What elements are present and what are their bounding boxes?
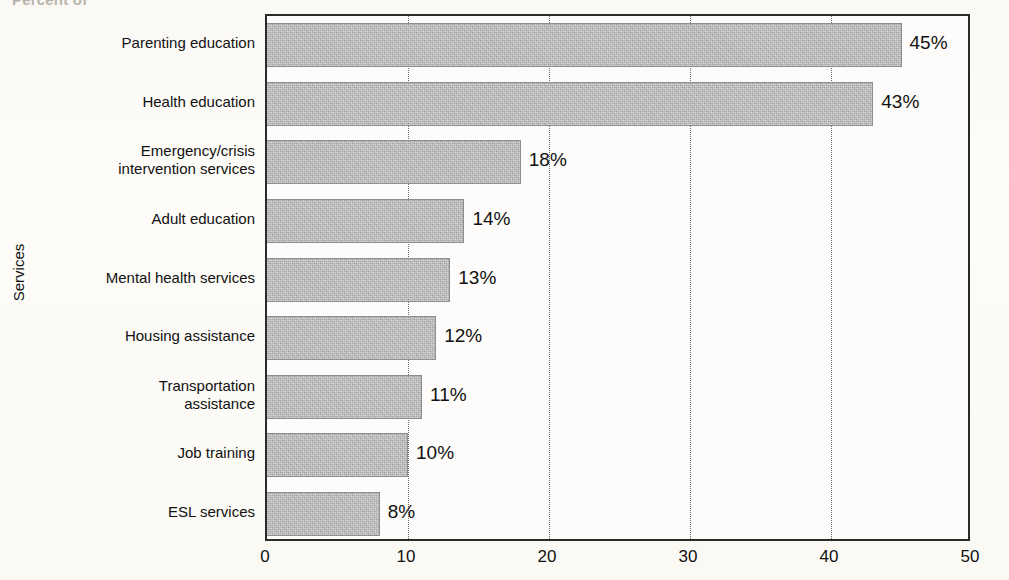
bar-value-label: 14% [472, 208, 510, 230]
bar [267, 199, 464, 243]
bar [267, 375, 422, 419]
plot-area [265, 14, 970, 541]
x-tick-label: 0 [260, 547, 269, 567]
category-label: Health education [0, 93, 265, 111]
bar-value-label: 11% [430, 384, 467, 406]
category-label: Mental health services [0, 269, 265, 287]
x-tick-label: 50 [961, 547, 980, 567]
category-label: Housing assistance [0, 327, 265, 345]
bar [267, 23, 902, 67]
x-tick-label: 40 [820, 547, 839, 567]
bar-value-label: 8% [388, 501, 415, 523]
category-label: ESL services [0, 503, 265, 521]
bar [267, 82, 873, 126]
category-label: Transportation assistance [0, 377, 265, 413]
bar-value-label: 12% [444, 325, 482, 347]
category-label: Job training [0, 444, 265, 462]
x-tick-label: 10 [397, 547, 416, 567]
x-tick-label: 20 [538, 547, 557, 567]
category-label: Adult education [0, 210, 265, 228]
category-label: Parenting education [0, 34, 265, 52]
bar-value-label: 10% [416, 442, 454, 464]
category-label: Emergency/crisis intervention services [0, 142, 265, 178]
bar-value-label: 13% [458, 267, 496, 289]
bar [267, 140, 521, 184]
x-tick-label: 30 [679, 547, 698, 567]
bar-value-label: 43% [881, 91, 919, 113]
cut-off-top-caption: Percent of [12, 0, 87, 8]
bar [267, 316, 436, 360]
horizontal-bar-chart: Percent of Services Parenting educationH… [0, 0, 1009, 580]
bar-value-label: 45% [910, 32, 948, 54]
bar [267, 433, 408, 477]
bar-value-label: 18% [529, 149, 567, 171]
bar [267, 492, 380, 536]
bar [267, 258, 450, 302]
